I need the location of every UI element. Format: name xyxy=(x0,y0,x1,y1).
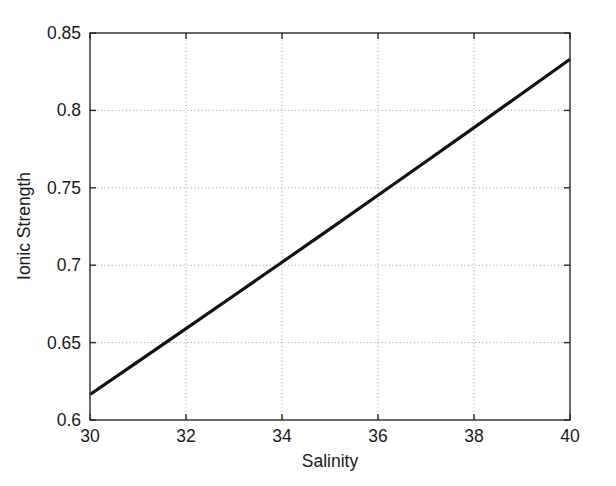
x-tick-labels: 303234363840 xyxy=(80,426,580,446)
x-tick-marks xyxy=(90,33,570,420)
data-series-group xyxy=(90,59,570,394)
y-tick-label-0.8: 0.8 xyxy=(57,100,81,120)
x-tick-label-40: 40 xyxy=(560,426,580,446)
y-tick-labels: 0.60.650.70.750.80.85 xyxy=(47,23,81,430)
y-tick-label-0.7: 0.7 xyxy=(57,255,81,275)
y-tick-label-0.85: 0.85 xyxy=(47,23,81,43)
y-tick-label-0.65: 0.65 xyxy=(47,333,81,353)
figure-canvas: 303234363840 0.60.650.70.750.80.85 Salin… xyxy=(0,0,616,486)
x-tick-label-32: 32 xyxy=(176,426,195,446)
x-axis-title: Salinity xyxy=(302,451,359,471)
x-tick-label-36: 36 xyxy=(368,426,387,446)
y-tick-label-0.75: 0.75 xyxy=(47,178,81,198)
x-tick-label-30: 30 xyxy=(80,426,100,446)
ionic-strength-vs-salinity-chart: 303234363840 0.60.650.70.750.80.85 Salin… xyxy=(0,0,616,486)
x-tick-label-38: 38 xyxy=(464,426,483,446)
y-tick-marks xyxy=(90,33,570,420)
axes-frame xyxy=(90,33,570,420)
x-tick-label-34: 34 xyxy=(272,426,292,446)
y-tick-label-0.6: 0.6 xyxy=(57,410,81,430)
horizontal-gridlines xyxy=(90,110,570,342)
ionic-strength-line xyxy=(90,59,570,394)
vertical-gridlines xyxy=(186,33,474,420)
y-axis-title: Ionic Strength xyxy=(14,172,34,280)
